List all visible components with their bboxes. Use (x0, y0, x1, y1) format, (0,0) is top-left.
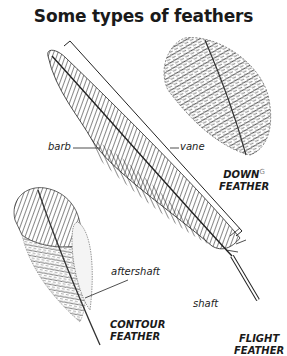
vane-label: vane (180, 141, 205, 152)
contour-feather (14, 188, 100, 345)
aftershaft-label: aftershaft (111, 266, 160, 277)
contour-caption-line2: FEATHER (110, 331, 165, 343)
barb-label: barb (48, 141, 71, 152)
flight-caption-line2: FEATHER (234, 345, 284, 356)
down-feather-caption: DOWNG FEATHER (219, 166, 269, 193)
shaft-label: shaft (193, 298, 218, 309)
down-caption-superscript: G (259, 168, 264, 176)
contour-caption-line1: CONTOUR (110, 319, 165, 331)
down-caption-line1: DOWN (223, 169, 259, 180)
contour-feather-caption: CONTOUR FEATHER (110, 319, 165, 343)
down-caption-line2: FEATHER (219, 181, 269, 193)
flight-feather-caption: FLIGHT FEATHER (234, 333, 284, 356)
down-feather (164, 38, 271, 155)
flight-caption-line1: FLIGHT (234, 333, 284, 345)
